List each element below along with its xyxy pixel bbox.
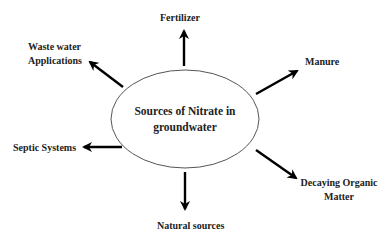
arrow-decaying-organic-matter [256, 150, 296, 178]
node-waste-water-line2: Applications [28, 54, 82, 68]
arrow-manure [256, 71, 297, 94]
node-waste-water-applications: Waste water Applications [28, 40, 82, 68]
node-natural-sources: Natural sources [157, 219, 224, 233]
center-title-line2: groundwater [110, 119, 260, 135]
center-title: Sources of Nitrate in groundwater [110, 103, 260, 135]
node-decaying-line2: Matter [300, 190, 378, 204]
node-waste-water-line1: Waste water [28, 40, 82, 54]
node-manure: Manure [305, 55, 339, 69]
node-fertilizer: Fertilizer [160, 11, 200, 25]
node-septic-systems: Septic Systems [13, 141, 76, 155]
arrow-waste-water [90, 62, 123, 87]
node-decaying-organic-matter: Decaying Organic Matter [300, 176, 378, 204]
center-title-line1: Sources of Nitrate in [110, 103, 260, 119]
node-decaying-line1: Decaying Organic [300, 176, 378, 190]
